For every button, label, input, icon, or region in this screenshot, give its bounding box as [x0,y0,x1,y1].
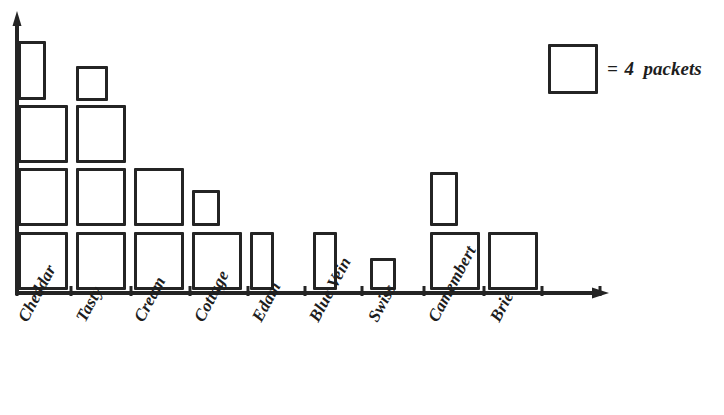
packet-symbol-cottage-2 [192,190,220,226]
packet-symbol-tasty-4 [76,66,108,101]
legend: = 4 packets [548,44,702,94]
packet-symbol-cheddar-3 [18,105,68,163]
packet-symbol-brie-1 [488,232,538,290]
legend-value: 4 [625,58,635,79]
packet-symbol-tasty-3 [76,105,126,163]
packet-square-symbol-icon [548,44,598,94]
legend-equals-sign: = [607,58,618,79]
packet-symbol-cheddar-4 [18,41,46,100]
packet-symbol-cheddar-2 [18,168,68,226]
packet-symbol-cream-2 [134,168,184,226]
packet-symbol-camembert-2 [430,172,458,226]
pictograph-figure: CheddarTastyCreamCottageEdamBlue VeinSwi… [0,0,724,415]
packet-symbol-tasty-2 [76,168,126,226]
legend-unit: packets [644,58,702,79]
legend-label: = 4 packets [607,58,702,80]
packet-symbol-tasty-1 [76,232,126,290]
